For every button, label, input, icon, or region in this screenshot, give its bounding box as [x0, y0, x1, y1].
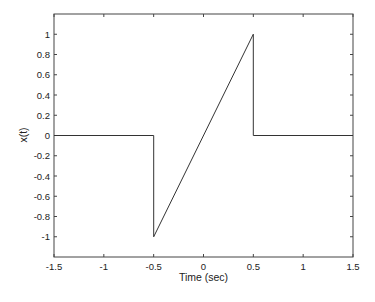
- x-tick-label: 1: [301, 261, 306, 272]
- y-tick-label: 0.6: [37, 69, 50, 80]
- x-tick-label: 0.5: [247, 261, 260, 272]
- y-tick-label: -0.2: [34, 150, 50, 161]
- y-tick-label: -0.4: [34, 171, 50, 182]
- x-tick-label: -0.5: [145, 261, 161, 272]
- y-tick-label: -0.8: [34, 211, 50, 222]
- y-tick-label: 0.8: [37, 49, 50, 60]
- y-tick-label: -0.6: [34, 191, 50, 202]
- y-tick-label: 1: [45, 29, 50, 40]
- y-tick-label: 0.4: [37, 90, 50, 101]
- y-tick-label: 0.2: [37, 110, 50, 121]
- y-tick-label: 0: [45, 130, 50, 141]
- x-tick-label: -1.5: [46, 261, 62, 272]
- x-tick-label: -1: [100, 261, 108, 272]
- chart: -1.5-1-0.500.511.5 10.80.60.40.20-0.2-0.…: [0, 0, 375, 302]
- y-axis-label: x(t): [17, 127, 29, 142]
- x-tick-label: 1.5: [346, 261, 359, 272]
- x-axis-label: Time (sec): [179, 271, 228, 283]
- y-tick-label: -1: [42, 231, 50, 242]
